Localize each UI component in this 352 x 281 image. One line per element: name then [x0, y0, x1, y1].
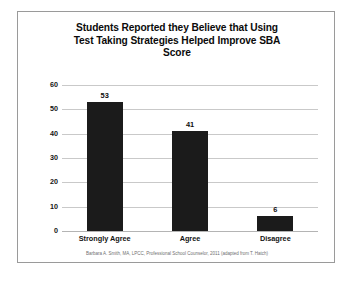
chart-title-line-1: Students Reported they Believe that Usin…	[36, 22, 318, 35]
y-axis-tick-label: 40	[36, 130, 58, 137]
y-axis-tick-label: 10	[36, 203, 58, 210]
y-axis-tick-label: 60	[36, 81, 58, 88]
bar-disagree[interactable]	[257, 216, 293, 231]
bar-agree[interactable]	[172, 131, 208, 231]
y-axis-tick-label: 50	[36, 106, 58, 113]
chart-footnote: Barbara A. Smith, MA, LPCC, Professional…	[28, 252, 326, 257]
plot-area: 53416	[62, 85, 318, 231]
x-axis-tick-label: Strongly Agree	[62, 235, 147, 242]
bar-group[interactable]: 6	[257, 85, 293, 231]
chart-title-line-3: Score	[36, 47, 318, 60]
bar-value-label: 53	[87, 92, 123, 99]
bar-group[interactable]: 41	[172, 85, 208, 231]
y-axis-tick-label: 30	[36, 154, 58, 161]
chart-figure: Students Reported they Believe that Usin…	[17, 11, 335, 263]
x-axis-tick-label: Disagree	[233, 235, 318, 242]
bar-value-label: 6	[257, 206, 293, 213]
x-axis: Strongly AgreeAgreeDisagree	[62, 235, 318, 247]
y-axis-tick-label: 0	[36, 227, 58, 234]
x-axis-tick-label: Agree	[147, 235, 232, 242]
gridline-0	[62, 231, 318, 232]
chart-title-line-2: Test Taking Strategies Helped Improve SB…	[36, 35, 318, 48]
chart-title: Students Reported they Believe that Usin…	[36, 22, 318, 60]
y-axis-tick-label: 20	[36, 179, 58, 186]
bar-group[interactable]: 53	[87, 85, 123, 231]
bar-value-label: 41	[172, 121, 208, 128]
bar-strongly-agree[interactable]	[87, 102, 123, 231]
y-axis: 0102030405060	[36, 85, 58, 231]
